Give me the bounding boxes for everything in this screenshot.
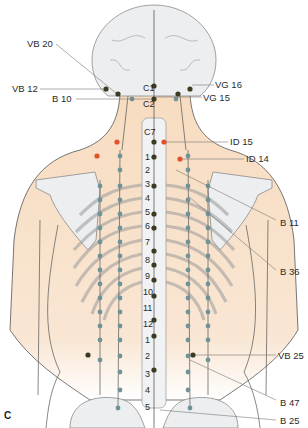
label-vb20: VB 20 bbox=[27, 39, 53, 49]
vertebra-t4: 4 bbox=[145, 194, 150, 203]
vertebra-l4: 4 bbox=[145, 386, 150, 395]
label-id15: ID 15 bbox=[230, 137, 253, 147]
label-vb25: VB 25 bbox=[278, 351, 304, 361]
vertebra-l5: 5 bbox=[145, 403, 150, 412]
left-iliac bbox=[70, 397, 145, 428]
vertebra-t1: 1 bbox=[145, 153, 150, 162]
vertebra-t2: 2 bbox=[145, 166, 150, 175]
vertebra-l1: 1 bbox=[145, 336, 150, 345]
vertebra-t12: 12 bbox=[143, 320, 153, 329]
back-acupuncture-diagram bbox=[0, 0, 308, 428]
label-b25: B 25 bbox=[280, 416, 300, 426]
label-b47: B 47 bbox=[280, 398, 300, 408]
panel-label: C bbox=[4, 410, 11, 421]
vertebra-t8: 8 bbox=[145, 256, 150, 265]
label-vg15: VG 15 bbox=[203, 93, 230, 103]
vertebra-t3: 3 bbox=[145, 180, 150, 189]
vertebra-t9: 9 bbox=[145, 272, 150, 281]
vertebra-c1: C1 bbox=[143, 84, 155, 93]
vertebra-l3: 3 bbox=[145, 370, 150, 379]
vertebra-t6: 6 bbox=[145, 222, 150, 231]
vertebra-t11: 11 bbox=[143, 304, 152, 313]
label-b36: B 36 bbox=[280, 267, 300, 277]
vertebra-c7: C7 bbox=[144, 128, 156, 137]
label-vg16: VG 16 bbox=[215, 80, 242, 90]
label-id14: ID 14 bbox=[246, 154, 269, 164]
label-vb12: VB 12 bbox=[12, 84, 38, 94]
vertebra-t7: 7 bbox=[145, 238, 150, 247]
vertebra-c2: C2 bbox=[143, 100, 155, 109]
vertebra-t10: 10 bbox=[143, 288, 153, 297]
right-iliac bbox=[163, 397, 238, 428]
label-b10: B 10 bbox=[52, 94, 72, 104]
vertebra-l2: 2 bbox=[145, 352, 150, 361]
label-b11: B 11 bbox=[280, 218, 299, 228]
vertebra-t5: 5 bbox=[145, 208, 150, 217]
